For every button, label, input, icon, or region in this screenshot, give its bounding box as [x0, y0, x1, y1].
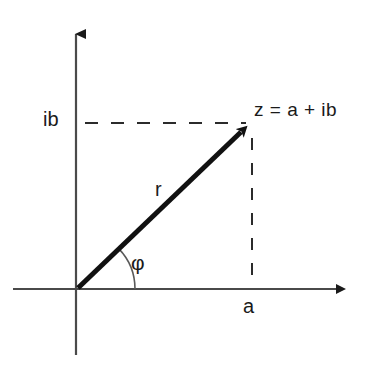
real-axis-label: a [243, 296, 254, 316]
argument-label: φ [131, 252, 145, 273]
complex-number-vector [78, 132, 241, 288]
complex-plane-figure: ib z = a + ib r φ a [0, 0, 372, 374]
imaginary-axis-label: ib [43, 109, 59, 129]
complex-number-label: z = a + ib [254, 100, 337, 119]
modulus-label: r [155, 179, 162, 199]
argand-diagram-svg [0, 0, 372, 374]
